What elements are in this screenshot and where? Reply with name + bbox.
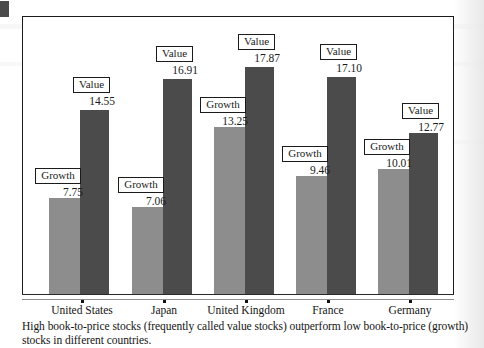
- x-axis-label-united-states: United States: [51, 303, 113, 317]
- callout-value-germany: Value 12.77: [394, 100, 447, 134]
- bar-growth-united-kingdom: [214, 127, 245, 298]
- callout-value-value-united-states: 14.55: [65, 94, 118, 108]
- callout-growth-germany: Growth 10.01: [359, 136, 415, 170]
- callout-growth-france: Growth 9.46: [277, 143, 333, 177]
- callout-tag-value: Value: [156, 46, 193, 62]
- x-axis-label-germany: Germany: [389, 303, 432, 317]
- x-axis-label-japan: Japan: [151, 303, 177, 317]
- figure-page: Growth 7.75 Value 14.55 Growth 7.06 Valu…: [0, 0, 484, 348]
- callout-value-growth-united-kingdom: 13.25: [195, 114, 251, 128]
- callout-tag-value: Value: [402, 103, 439, 119]
- bar-value-united-states: [80, 110, 109, 298]
- callout-tag-growth: Growth: [200, 97, 246, 113]
- bar-growth-japan: [132, 207, 163, 298]
- bar-growth-germany: [378, 169, 409, 298]
- x-axis-line: [22, 294, 454, 300]
- callout-tag-growth: Growth: [35, 168, 81, 184]
- callout-tag-value: Value: [73, 77, 110, 93]
- callout-value-japan: Value 16.91: [148, 43, 201, 77]
- callout-value-growth-france: 9.46: [277, 163, 333, 177]
- callout-value-united-states: Value 14.55: [65, 74, 118, 108]
- callout-value-growth-japan: 7.06: [113, 194, 169, 208]
- callout-growth-japan: Growth 7.06: [113, 174, 169, 208]
- bar-value-france: [327, 77, 356, 298]
- scan-artifact-band-4: [454, 140, 484, 144]
- chart-plot-frame: Growth 7.75 Value 14.55 Growth 7.06 Valu…: [22, 16, 454, 299]
- callout-value-growth-united-states: 7.75: [30, 185, 86, 199]
- callout-value-united-kingdom: Value 17.87: [230, 31, 283, 65]
- x-axis-label-united-kingdom: United Kingdom: [207, 303, 285, 317]
- callout-value-value-germany: 12.77: [394, 120, 447, 134]
- scan-artifact-band-3: [454, 62, 484, 66]
- bar-growth-france: [296, 176, 327, 298]
- callout-growth-united-kingdom: Growth 13.25: [195, 94, 251, 128]
- callout-value-value-japan: 16.91: [148, 63, 201, 77]
- scan-page-edge-right: [454, 0, 484, 348]
- callout-growth-united-states: Growth 7.75: [30, 165, 86, 199]
- chart-plot-area: Growth 7.75 Value 14.55 Growth 7.06 Valu…: [23, 17, 453, 298]
- callout-value-france: Value 17.10: [312, 41, 365, 75]
- scan-artifact-band-2: [0, 62, 22, 66]
- callout-tag-growth: Growth: [282, 146, 328, 162]
- bar-growth-united-states: [49, 198, 80, 298]
- x-axis-label-france: France: [312, 303, 343, 317]
- callout-tag-value: Value: [238, 34, 275, 50]
- callout-tag-value: Value: [320, 44, 357, 60]
- callout-value-value-united-kingdom: 17.87: [230, 51, 283, 65]
- scan-corner-mark: [0, 1, 9, 17]
- callout-value-value-france: 17.10: [312, 61, 365, 75]
- callout-value-growth-germany: 10.01: [359, 156, 415, 170]
- callout-tag-growth: Growth: [118, 177, 164, 193]
- figure-caption: High book-to-price stocks (frequently ca…: [22, 320, 474, 347]
- callout-tag-growth: Growth: [364, 139, 410, 155]
